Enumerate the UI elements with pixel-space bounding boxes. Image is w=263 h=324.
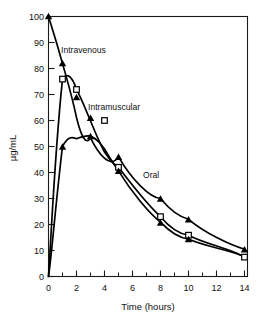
x-tick-label-2: 2 [74,283,79,293]
y-tick-label-40: 40 [34,168,44,178]
annotation-intramuscular: Intramuscular [88,102,140,112]
y-tick-label-30: 30 [34,194,44,204]
y-tick-label-80: 80 [34,64,44,74]
y-tick-label-90: 90 [34,38,44,48]
x-tick-label-14: 14 [239,283,249,293]
x-tick-label-6: 6 [130,283,135,293]
pharmacokinetics-chart: 0 10 20 30 40 50 60 70 80 90 100 µg/mL [0,0,263,324]
y-tick-label-50: 50 [34,142,44,152]
marker-im-14 [242,254,248,260]
x-tick-label-8: 8 [158,283,163,293]
x-tick-label-4: 4 [102,283,107,293]
marker-im-8 [158,214,164,220]
y-tick-label-0: 0 [39,272,44,282]
x-axis-title: Time (hours) [121,301,175,312]
y-tick-label-20: 20 [34,220,44,230]
y-tick-label-10: 10 [34,246,44,256]
y-axis-title: µg/mL [7,135,18,162]
marker-im-1 [60,76,66,82]
y-tick-label-100: 100 [29,12,44,22]
annotation-intravenous: Intravenous [61,45,106,55]
y-tick-label-60: 60 [34,116,44,126]
marker-im-4 [102,118,108,124]
annotation-oral: Oral [143,170,159,180]
x-tick-label-10: 10 [183,283,193,293]
x-tick-label-0: 0 [46,283,51,293]
marker-im-2 [74,87,80,93]
y-tick-label-70: 70 [34,90,44,100]
x-tick-label-12: 12 [211,283,221,293]
